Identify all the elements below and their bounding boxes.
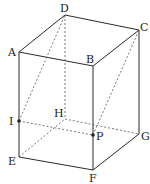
edge-EF xyxy=(19,157,93,170)
segment-PC xyxy=(93,30,139,135)
label-A: A xyxy=(7,46,17,59)
label-E: E xyxy=(8,155,16,168)
label-P: P xyxy=(96,130,104,143)
edge-CD xyxy=(65,15,139,30)
label-H: H xyxy=(54,107,64,120)
label-C: C xyxy=(140,21,148,34)
label-D: D xyxy=(60,2,69,15)
label-I: I xyxy=(9,115,13,128)
point-I-dot xyxy=(17,119,21,123)
cuboid-diagram: D C A B I H P G E F xyxy=(0,0,150,184)
segment-IP xyxy=(19,121,93,135)
segment-ID xyxy=(19,15,65,121)
label-G: G xyxy=(141,130,150,143)
edge-DA xyxy=(19,15,65,52)
hidden-edge-EH xyxy=(19,119,65,157)
edge-AB xyxy=(19,52,93,66)
edge-BC xyxy=(93,30,139,66)
label-F: F xyxy=(89,172,97,184)
label-B: B xyxy=(86,53,94,66)
point-P-dot xyxy=(91,133,95,137)
